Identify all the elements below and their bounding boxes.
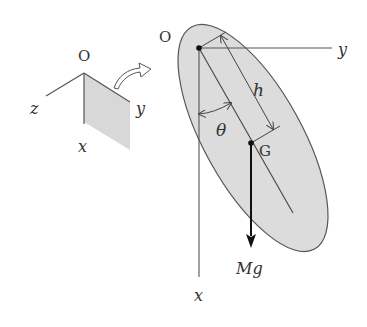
main-y-label: y [337, 40, 348, 59]
inset-shaded-plane [84, 73, 130, 150]
angle-theta-label: θ [216, 120, 226, 140]
inset-x-label: x [78, 137, 87, 156]
pendulum-diagram: O z y x O y x G h θ Mg [0, 0, 367, 327]
center-of-mass-g [248, 140, 254, 146]
rigid-body [149, 3, 358, 273]
inset-origin-label: O [78, 47, 90, 65]
inset-z-label: z [29, 99, 39, 118]
pivot-point-o [196, 45, 202, 51]
force-mg-label: Mg [235, 259, 263, 278]
inset-y-label: y [135, 99, 146, 118]
main-origin-label: O [159, 28, 171, 46]
distance-h-label: h [253, 80, 264, 100]
main-x-label: x [194, 286, 203, 305]
center-of-mass-label: G [259, 142, 271, 160]
transition-arrow-icon [114, 63, 151, 89]
gravity-arrowhead-icon [246, 234, 256, 248]
inset-z-axis [46, 73, 84, 96]
